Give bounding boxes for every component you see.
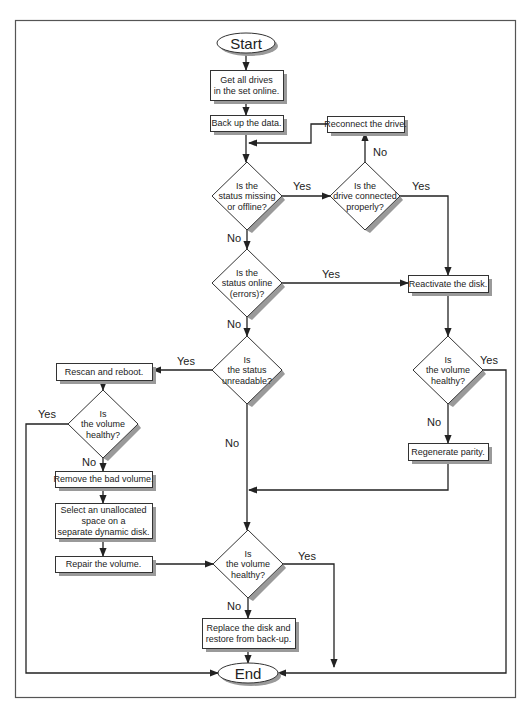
edge-label-yes-missing: Yes xyxy=(293,180,311,192)
node-label: (errors)? xyxy=(230,289,265,299)
node-label: Back up the data. xyxy=(211,118,281,128)
node-label: the volume xyxy=(81,419,125,429)
node-reactivate: Reactivate the disk. xyxy=(409,276,493,297)
edge-label-no-online-err: No xyxy=(227,318,241,330)
edge-label-no-healthy-bottom: No xyxy=(227,600,241,612)
edge-label-no-unreadable: No xyxy=(225,437,239,449)
node-label: End xyxy=(235,665,262,682)
node-label: Get all drives xyxy=(220,75,273,85)
node-label: Is xyxy=(99,409,107,419)
node-label: Remove the bad volume. xyxy=(53,474,153,484)
node-label: Is xyxy=(243,355,251,365)
edge-label-yes-healthy-bottom: Yes xyxy=(298,550,316,562)
node-label: in the set online. xyxy=(214,86,280,96)
edge-label-no-connected: No xyxy=(373,146,387,158)
node-regenerate: Regenerate parity. xyxy=(409,444,493,465)
node-label: healthy? xyxy=(231,570,265,580)
node-label: the status xyxy=(227,365,267,375)
node-reconnect: Reconnect the drive. xyxy=(324,117,408,137)
flowchart: StartGet all drivesin the set online.Bac… xyxy=(0,0,526,706)
node-label: unreadable? xyxy=(222,376,272,386)
edge-label-yes-unreadable: Yes xyxy=(177,355,195,367)
node-label: Repair the volume. xyxy=(66,559,142,569)
node-label: Rescan and reboot. xyxy=(65,367,144,377)
node-label: Is the xyxy=(236,181,258,191)
node-label: Regenerate parity. xyxy=(411,447,484,457)
node-label: Is xyxy=(444,355,452,365)
node-get-online: Get all drivesin the set online. xyxy=(211,71,288,105)
node-label: Replace the disk and xyxy=(206,623,290,633)
node-label: space on a xyxy=(81,516,125,526)
node-backup: Back up the data. xyxy=(211,116,288,136)
edge-label-yes-healthy-right: Yes xyxy=(480,354,498,366)
node-label: drive connected xyxy=(333,191,397,201)
node-rescan: Rescan and reboot. xyxy=(57,364,157,385)
node-label: Start xyxy=(230,35,263,52)
edge-label-no-healthy-left: No xyxy=(82,456,96,468)
edge-label-no-missing: No xyxy=(227,232,241,244)
node-label: restore from back-up. xyxy=(206,634,292,644)
node-label: the volume xyxy=(426,365,470,375)
node-label: or offline? xyxy=(227,202,266,212)
node-label: healthy? xyxy=(86,430,120,440)
node-label: Reconnect the drive. xyxy=(324,119,407,129)
node-label: Is xyxy=(244,549,252,559)
edge-label-yes-healthy-left: Yes xyxy=(38,408,56,420)
edge-label-yes-connected: Yes xyxy=(412,180,430,192)
node-label: Is the xyxy=(354,181,376,191)
node-select-space: Select an unallocatedspace on aseparate … xyxy=(56,504,157,543)
node-label: properly? xyxy=(346,202,384,212)
node-repair: Repair the volume. xyxy=(56,557,157,577)
edge-label-no-healthy-right: No xyxy=(427,416,441,428)
node-label: status online xyxy=(222,278,273,288)
node-remove: Remove the bad volume. xyxy=(53,472,156,492)
node-label: healthy? xyxy=(431,376,465,386)
node-label: separate dynamic disk. xyxy=(57,527,149,537)
node-label: the volume xyxy=(226,559,270,569)
node-label: Reactivate the disk. xyxy=(409,279,488,289)
node-label: Select an unallocated xyxy=(60,505,146,515)
node-label: Is the xyxy=(236,268,258,278)
node-label: status missing xyxy=(218,191,275,201)
node-replace: Replace the disk andrestore from back-up… xyxy=(203,619,300,653)
edge-label-yes-online-err: Yes xyxy=(322,268,340,280)
